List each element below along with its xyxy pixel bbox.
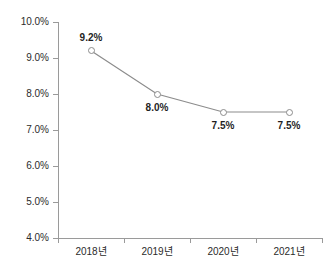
y-tick-label: 8.0% bbox=[26, 89, 49, 99]
plot-area: 4.0%5.0%6.0%7.0%8.0%9.0%10.0% 2018년2019년… bbox=[58, 22, 322, 238]
x-tick bbox=[58, 238, 59, 243]
line-chart: 4.0%5.0%6.0%7.0%8.0%9.0%10.0% 2018년2019년… bbox=[0, 0, 336, 277]
y-tick-label: 9.0% bbox=[26, 53, 49, 63]
y-tick-label: 6.0% bbox=[26, 161, 49, 171]
data-point-label: 7.5% bbox=[212, 121, 235, 131]
data-point-marker bbox=[286, 109, 293, 116]
x-tick bbox=[190, 238, 191, 243]
data-point-label: 8.0% bbox=[146, 103, 169, 113]
x-tick-label: 2021년 bbox=[273, 247, 304, 257]
x-tick bbox=[124, 238, 125, 243]
data-point-marker bbox=[154, 91, 161, 98]
x-tick-label: 2018년 bbox=[75, 247, 106, 257]
data-point-marker bbox=[88, 47, 95, 54]
y-tick-label: 7.0% bbox=[26, 125, 49, 135]
data-point-label: 7.5% bbox=[278, 121, 301, 131]
x-tick-label: 2019년 bbox=[141, 247, 172, 257]
y-tick-label: 10.0% bbox=[21, 17, 49, 27]
data-point-marker bbox=[220, 109, 227, 116]
y-tick-label: 4.0% bbox=[26, 233, 49, 243]
x-tick-label: 2020년 bbox=[207, 247, 238, 257]
x-tick bbox=[322, 238, 323, 243]
x-tick bbox=[256, 238, 257, 243]
y-tick-label: 5.0% bbox=[26, 197, 49, 207]
data-point-label: 9.2% bbox=[80, 33, 103, 43]
